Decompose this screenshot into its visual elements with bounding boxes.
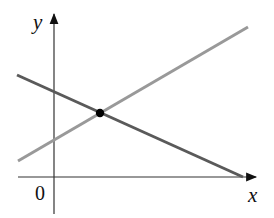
increasing-line xyxy=(18,27,248,161)
decreasing-line xyxy=(17,75,243,177)
x-axis-label: x xyxy=(248,185,257,206)
y-axis-label: y xyxy=(33,12,42,33)
origin-label: 0 xyxy=(35,183,45,203)
intersection-point xyxy=(96,109,104,117)
coordinate-diagram: y x 0 xyxy=(0,0,274,218)
